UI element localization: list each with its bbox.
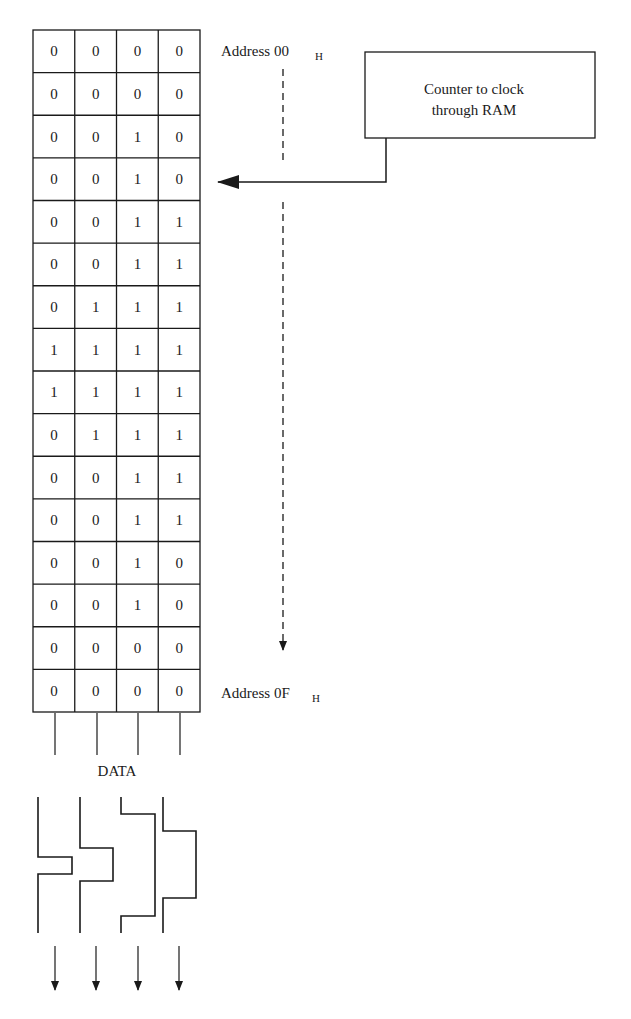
ram-cell: 0 <box>92 43 100 59</box>
waveform-bit1 <box>121 797 155 933</box>
ram-cell: 0 <box>175 86 183 102</box>
ram-cell: 0 <box>175 640 183 656</box>
ram-cell: 0 <box>92 214 100 230</box>
ram-cell: 1 <box>175 342 183 358</box>
ram-cell: 0 <box>50 640 58 656</box>
ram-cell: 0 <box>175 597 183 613</box>
ram-cell: 1 <box>175 512 183 528</box>
ram-cell: 0 <box>175 171 183 187</box>
ram-cell: 1 <box>175 214 183 230</box>
ram-cell: 0 <box>134 640 142 656</box>
ram-cell: 0 <box>50 256 58 272</box>
ram-cell: 1 <box>134 299 142 315</box>
data-label: DATA <box>98 763 137 779</box>
start-address-subscript: H <box>315 50 323 62</box>
ram-cell: 0 <box>92 256 100 272</box>
ram-cell: 0 <box>175 683 183 699</box>
ram-cell: 1 <box>175 384 183 400</box>
ram-cell: 1 <box>50 342 58 358</box>
ram-cell: 1 <box>92 384 100 400</box>
ram-cell: 0 <box>92 597 100 613</box>
ram-cell: 1 <box>134 470 142 486</box>
end-address-subscript: H <box>312 692 320 704</box>
ram-cell: 0 <box>134 43 142 59</box>
ram-cell: 1 <box>92 342 100 358</box>
ram-cell: 1 <box>50 384 58 400</box>
ram-cell: 0 <box>175 43 183 59</box>
waveform-bit0 <box>163 797 196 933</box>
ram-cell: 0 <box>92 555 100 571</box>
counter-box-line1: Counter to clock <box>424 81 524 97</box>
output-arrows <box>55 946 179 990</box>
start-address-label: Address 00 <box>221 43 289 59</box>
ram-cell: 1 <box>134 384 142 400</box>
ram-cell: 0 <box>50 597 58 613</box>
ram-cell: 1 <box>175 470 183 486</box>
ram-cell: 1 <box>92 299 100 315</box>
ram-cell: 0 <box>175 555 183 571</box>
ram-cell: 0 <box>92 470 100 486</box>
ram-cell: 0 <box>92 86 100 102</box>
ram-cell: 0 <box>50 129 58 145</box>
ram-cell: 0 <box>50 171 58 187</box>
ram-lookup-diagram: 0000000000100010001100110111111111110111… <box>0 0 631 1019</box>
ram-cell: 0 <box>50 555 58 571</box>
ram-cell: 0 <box>92 640 100 656</box>
ram-cell: 0 <box>50 214 58 230</box>
data-bus-lines <box>55 713 180 755</box>
output-waveforms <box>38 797 196 933</box>
waveform-bit3 <box>38 797 72 933</box>
ram-cell: 1 <box>134 171 142 187</box>
ram-cell: 1 <box>92 427 100 443</box>
counter-pointer-arrow <box>218 138 386 182</box>
ram-cell: 1 <box>134 342 142 358</box>
ram-cell: 1 <box>175 427 183 443</box>
counter-box-line2: through RAM <box>432 102 517 118</box>
ram-cell: 0 <box>175 129 183 145</box>
ram-cell: 1 <box>134 214 142 230</box>
ram-cell: 0 <box>92 171 100 187</box>
ram-cell: 1 <box>134 512 142 528</box>
ram-cell: 0 <box>50 512 58 528</box>
ram-cell: 1 <box>134 597 142 613</box>
ram-cell: 0 <box>50 43 58 59</box>
waveform-bit2 <box>80 797 113 933</box>
ram-cell: 0 <box>92 129 100 145</box>
ram-cell: 0 <box>134 683 142 699</box>
ram-cell: 1 <box>134 256 142 272</box>
ram-cell: 1 <box>175 256 183 272</box>
ram-cell: 0 <box>134 86 142 102</box>
ram-cell: 0 <box>92 683 100 699</box>
ram-cell: 1 <box>134 129 142 145</box>
ram-cell: 0 <box>50 683 58 699</box>
ram-cell: 1 <box>134 427 142 443</box>
ram-cell: 1 <box>175 299 183 315</box>
ram-cell: 1 <box>134 555 142 571</box>
ram-cell: 0 <box>50 299 58 315</box>
ram-cell: 0 <box>92 512 100 528</box>
ram-cell: 0 <box>50 427 58 443</box>
ram-cell: 0 <box>50 470 58 486</box>
ram-cell: 0 <box>50 86 58 102</box>
end-address-label: Address 0F <box>221 685 290 701</box>
